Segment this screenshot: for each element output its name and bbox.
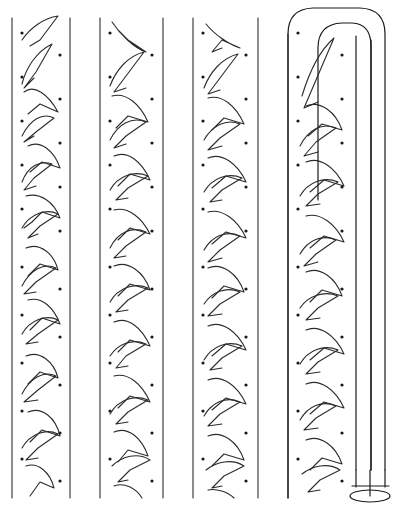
dot-mark — [20, 265, 23, 268]
dot-mark — [201, 409, 204, 412]
dot-mark — [108, 207, 111, 210]
dot-mark — [201, 207, 204, 210]
dot-mark — [244, 335, 247, 338]
dot-mark — [58, 335, 61, 338]
dot-mark — [244, 479, 247, 482]
dot-mark — [108, 409, 111, 412]
dot-mark — [58, 185, 61, 188]
dot-mark — [20, 361, 23, 364]
dot-mark — [108, 313, 111, 316]
dot-mark — [108, 163, 111, 166]
line-drawing-canvas — [0, 0, 404, 516]
dot-mark — [296, 313, 299, 316]
dot-mark — [201, 119, 204, 122]
dot-mark — [150, 479, 153, 482]
dot-mark — [58, 287, 61, 290]
dot-mark — [108, 361, 111, 364]
dot-mark — [244, 141, 247, 144]
dot-mark — [58, 97, 61, 100]
dot-mark — [108, 457, 111, 460]
dot-mark — [340, 383, 343, 386]
dot-mark — [20, 163, 23, 166]
dot-mark — [201, 31, 204, 34]
dot-mark — [340, 229, 343, 232]
dot-mark — [150, 383, 153, 386]
dot-mark — [201, 361, 204, 364]
dot-mark — [296, 361, 299, 364]
dot-mark — [340, 431, 343, 434]
dot-mark — [201, 313, 204, 316]
dot-mark — [296, 265, 299, 268]
dot-mark — [20, 457, 23, 460]
dot-mark — [244, 229, 247, 232]
dot-mark — [58, 479, 61, 482]
dot-mark — [20, 119, 23, 122]
dot-mark — [244, 431, 247, 434]
dot-mark — [108, 31, 111, 34]
dot-mark — [296, 163, 299, 166]
dot-mark — [150, 185, 153, 188]
dot-mark — [340, 287, 343, 290]
dot-mark — [201, 163, 204, 166]
dot-mark — [340, 185, 343, 188]
dot-mark — [296, 457, 299, 460]
dot-mark — [20, 313, 23, 316]
dot-mark — [150, 53, 153, 56]
dot-mark — [58, 53, 61, 56]
dot-mark — [58, 431, 61, 434]
dot-mark — [244, 287, 247, 290]
dot-mark — [58, 229, 61, 232]
dot-mark — [296, 207, 299, 210]
figure-root — [0, 0, 404, 516]
dot-mark — [58, 383, 61, 386]
dot-mark — [150, 287, 153, 290]
dot-mark — [20, 207, 23, 210]
dot-mark — [20, 31, 23, 34]
dot-mark — [150, 141, 153, 144]
dot-mark — [108, 265, 111, 268]
dot-mark — [201, 457, 204, 460]
dot-mark — [58, 141, 61, 144]
dot-mark — [201, 265, 204, 268]
dot-mark — [340, 479, 343, 482]
dot-mark — [150, 229, 153, 232]
dot-mark — [296, 75, 299, 78]
dot-mark — [340, 53, 343, 56]
dot-mark — [20, 409, 23, 412]
dot-mark — [296, 31, 299, 34]
dot-mark — [296, 119, 299, 122]
dot-mark — [244, 53, 247, 56]
dot-mark — [150, 335, 153, 338]
dot-mark — [244, 383, 247, 386]
dot-mark — [108, 75, 111, 78]
dot-mark — [340, 335, 343, 338]
dot-mark — [296, 409, 299, 412]
dot-mark — [201, 75, 204, 78]
dot-mark — [340, 141, 343, 144]
dot-mark — [150, 97, 153, 100]
dot-mark — [108, 119, 111, 122]
dot-mark — [150, 431, 153, 434]
dot-mark — [244, 185, 247, 188]
dot-mark — [20, 75, 23, 78]
dot-mark — [244, 97, 247, 100]
dot-mark — [340, 97, 343, 100]
